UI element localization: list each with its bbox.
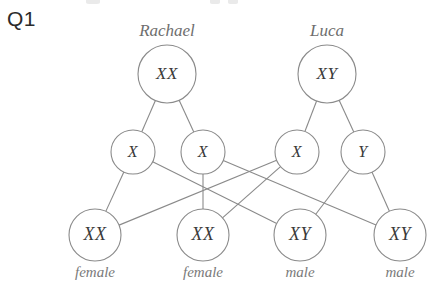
parent-name-luca: Luca	[309, 21, 344, 40]
gamete-offspring-link-g3-o2	[222, 167, 280, 218]
offspring-node-o3-genotype: XY	[288, 224, 312, 244]
parent-gamete-link-luca-g4	[339, 100, 354, 132]
offspring-node-o2-genotype: XX	[191, 224, 215, 244]
parent-gamete-link-rachael-g2	[179, 100, 194, 132]
offspring-sex-label-o2: female	[183, 264, 223, 280]
gamete-offspring-link-g4-o4	[372, 172, 389, 211]
offspring-sex-label-o4: male	[385, 264, 415, 280]
parent-name-rachael: Rachael	[138, 21, 195, 40]
parent-node-rachael-genotype: XX	[155, 64, 178, 83]
gamete-offspring-link-g1-o1	[106, 172, 124, 211]
offspring-node-o4-genotype: XY	[388, 224, 412, 244]
gamete-node-g2-genotype: X	[197, 143, 209, 160]
offspring-sex-label-o3: male	[285, 264, 315, 280]
parent-gamete-link-rachael-g1	[142, 101, 156, 132]
parent-gamete-link-luca-g3	[305, 101, 317, 131]
gamete-offspring-link-g4-o3	[316, 170, 350, 215]
gamete-node-g3-genotype: X	[291, 143, 303, 160]
parent-node-luca-genotype: XY	[316, 64, 339, 83]
offspring-node-o1-genotype: XX	[83, 224, 107, 244]
gamete-node-g4-genotype: Y	[358, 143, 369, 160]
offspring-sex-label-o1: female	[75, 264, 115, 280]
inheritance-diagram: XXXYXXXYXXXXXYXY RachaelLucafemalefemale…	[0, 0, 441, 293]
nodes-group: XXXYXXXYXXXXXYXY	[69, 45, 426, 261]
gamete-node-g1-genotype: X	[127, 143, 139, 160]
pedigree-diagram-canvas: Q1 XXXYXXXYXXXXXYXY RachaelLucafemalefem…	[0, 0, 441, 293]
